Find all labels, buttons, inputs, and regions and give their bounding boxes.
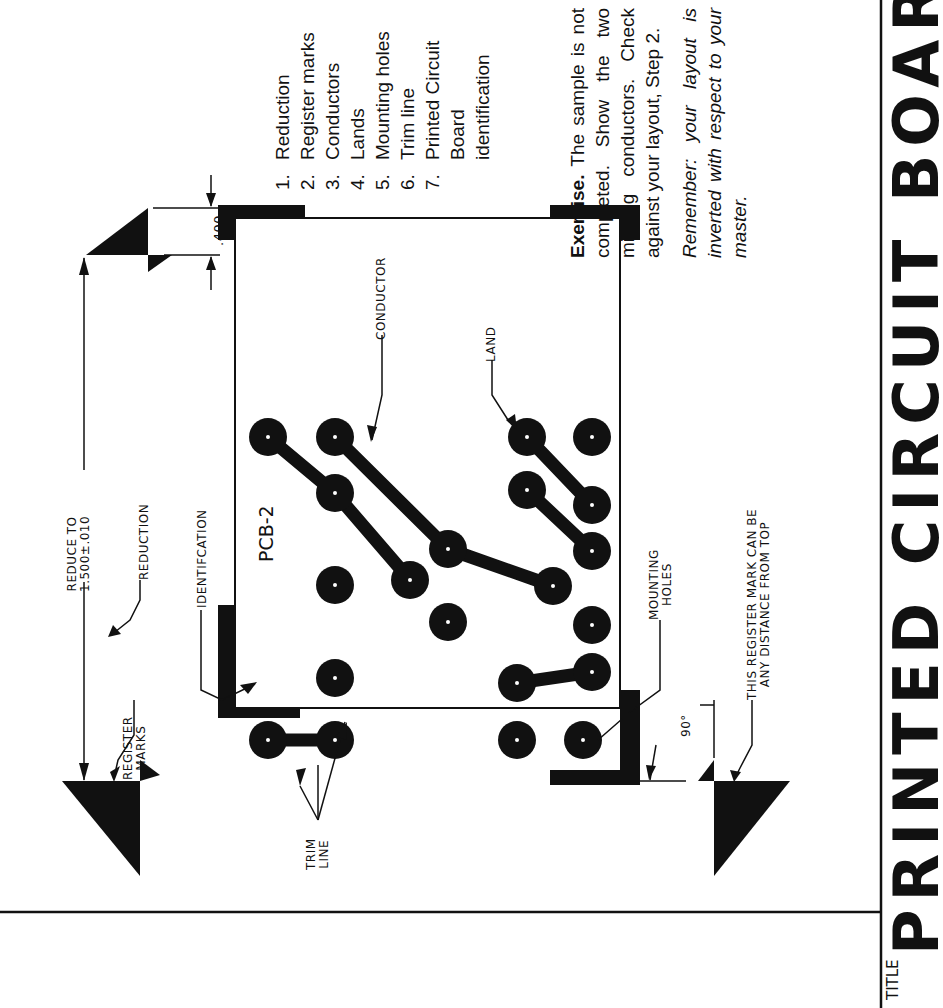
legend-item: Board xyxy=(445,31,470,190)
legend-item: 4.Lands xyxy=(345,31,370,190)
register-note-label: THIS REGISTER MARK CAN BE ANY DISTANCE F… xyxy=(746,509,772,700)
instructions-block: Exercise. The sample is not completed. S… xyxy=(565,8,752,258)
legend-item: 6.Trim line xyxy=(395,31,420,190)
legend-item: 5.Mounting holes xyxy=(370,31,395,190)
register-mark-top-icon xyxy=(86,208,148,255)
reduce-to-label: REDUCE TO 1.500±.010 xyxy=(66,516,92,592)
title-block-label: TITLE xyxy=(884,959,902,1000)
remember-paragraph: Remember: your layout is inverted with r… xyxy=(677,8,752,258)
register-mark-bottom-left-icon xyxy=(62,781,140,876)
legend-list: 1.Reduction 2.Register marks 3.Conductor… xyxy=(270,31,495,190)
reduction-label: REDUCTION xyxy=(138,504,151,580)
register-marks-label: REGISTER MARKS xyxy=(122,716,148,780)
angle-label: 90° xyxy=(680,714,693,737)
legend-item: 2.Register marks xyxy=(295,31,320,190)
trim-line-label: TRIM LINE xyxy=(305,838,331,870)
legend-item: 1.Reduction xyxy=(270,31,295,190)
register-mark-bottom-right-icon xyxy=(714,781,790,876)
identification-label: IDENTIFCATION xyxy=(196,509,209,608)
mounting-holes-label: MOUNTING HOLES xyxy=(648,549,674,620)
pcb-identification: PCB-2 xyxy=(255,505,277,562)
exercise-paragraph: Exercise. The sample is not completed. S… xyxy=(565,8,665,258)
land-label: LAND xyxy=(485,327,498,362)
drawing-title: PRINTED CIRCUIT BOARD xyxy=(880,0,943,955)
conductor-label: CONDUCTOR xyxy=(375,257,388,340)
legend-item: identification xyxy=(470,31,495,190)
legend-item: 3.Conductors xyxy=(320,31,345,190)
legend-item: 7.Printed Circuit xyxy=(420,31,445,190)
dimension-400-label: .400 xyxy=(212,215,225,246)
